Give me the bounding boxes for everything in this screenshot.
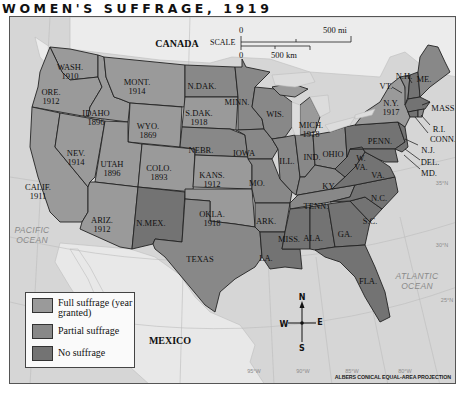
label-ri: R.I.: [433, 125, 446, 134]
lat-30: 30°N: [436, 242, 448, 248]
legend-item-partial: Partial suffrage: [32, 324, 138, 339]
label-ndak: N.DAK.: [188, 82, 217, 91]
legend-swatch-partial: [32, 324, 53, 339]
label-calif: CALIF.1911: [25, 183, 51, 201]
label-ore: ORE.1912: [41, 88, 60, 106]
label-nc: N.C.: [371, 194, 387, 203]
label-fla: FLA.: [359, 277, 377, 286]
atlantic-line2: OCEAN: [401, 281, 433, 291]
legend-label-partial: Partial suffrage: [58, 324, 138, 336]
legend-item-full: Full suffrage (year granted): [32, 298, 134, 318]
legend: Full suffrage (year granted) Partial suf…: [25, 292, 135, 368]
lon-90: 90°W: [296, 368, 310, 374]
atlantic-ocean-label: ATLANTIC OCEAN: [396, 271, 439, 291]
legend-swatch-none: [32, 346, 53, 361]
label-vt: VT.: [380, 82, 393, 91]
label-okla: OKLA.1918: [199, 210, 225, 228]
scale-ruler: [215, 22, 375, 64]
projection-note: ALBERS CONICAL EQUAL-AREA PROJECTION: [335, 374, 451, 380]
label-iowa: IOWA: [233, 149, 255, 158]
mexico-label: MEXICO: [149, 336, 191, 345]
label-ala: ALA.: [303, 234, 323, 243]
compass-n: N: [299, 293, 306, 302]
label-sc: S.C.: [363, 217, 378, 226]
label-wyo: WYO.1869: [137, 122, 159, 140]
label-nmex: N.MEX.: [136, 219, 165, 228]
label-penn: PENN.: [368, 137, 392, 146]
label-va: VA.: [371, 171, 384, 180]
map-frame: CANADA MEXICO PACIFIC OCEAN ATLANTIC OCE…: [9, 16, 456, 384]
label-tenn: TENN.: [304, 202, 329, 211]
compass-w: W: [280, 320, 289, 329]
label-utah: UTAH1896: [101, 160, 124, 178]
label-colo: COLO.1893: [146, 164, 171, 182]
legend-label-full: Full suffrage (year granted): [58, 298, 134, 318]
label-kans: KANS.1912: [199, 171, 224, 189]
legend-item-none: No suffrage: [32, 346, 134, 361]
label-idaho: IDAHO1896: [82, 109, 109, 127]
lon-95: 95°W: [247, 368, 261, 374]
label-md: MD.: [421, 169, 437, 178]
label-nebr: NEBR.: [189, 146, 214, 155]
label-ill: ILL.: [279, 157, 294, 166]
lat-25: 25°N: [441, 297, 453, 303]
label-me: ME.: [417, 75, 432, 84]
label-wash: WASH.1910: [57, 63, 83, 81]
canada-label: CANADA: [155, 39, 198, 48]
label-mont: MONT.1914: [124, 78, 151, 96]
label-conn: CONN.: [430, 135, 456, 144]
label-ark: ARK.: [256, 217, 276, 226]
label-mich: MICH.1918: [299, 121, 323, 139]
label-mo: MO.: [249, 179, 265, 188]
legend-swatch-full: [32, 298, 53, 313]
scale-bar: 0 500 mi SCALE 0 500 km: [215, 22, 375, 64]
lat-35: 35°N: [436, 180, 448, 186]
label-ga: GA.: [338, 230, 352, 239]
label-nj: N.J.: [421, 146, 435, 155]
label-del: DEL.: [421, 158, 440, 167]
label-ohio: OHIO: [322, 150, 343, 159]
pacific-line1: PACIFIC: [14, 225, 49, 235]
label-texas: TEXAS: [186, 255, 213, 264]
label-wva: W. VA.: [351, 154, 371, 172]
label-ariz: ARIZ.1912: [91, 216, 113, 234]
label-mass: MASS.: [431, 104, 456, 113]
pacific-line2: OCEAN: [16, 235, 48, 245]
atlantic-line1: ATLANTIC: [396, 271, 439, 281]
label-minn: MINN.: [225, 98, 250, 107]
label-ky: KY.: [322, 182, 335, 191]
map-title: WOMEN'S SUFFRAGE, 1919: [2, 0, 272, 17]
compass-e: E: [317, 318, 322, 327]
label-sdak: S.DAK.1918: [185, 109, 212, 127]
label-miss: MISS.: [278, 235, 300, 244]
legend-label-none: No suffrage: [58, 346, 134, 358]
label-nh: N.H.: [396, 72, 413, 81]
label-la: LA.: [259, 254, 272, 263]
compass-s: S: [299, 344, 305, 353]
label-ind: IND.: [303, 153, 320, 162]
pacific-ocean-label: PACIFIC OCEAN: [14, 225, 49, 245]
label-wis: WIS.: [266, 110, 284, 119]
label-nev: NEV.1914: [67, 149, 86, 167]
label-ny: N.Y.1917: [383, 99, 400, 117]
compass-rose: N W E S: [282, 292, 322, 352]
